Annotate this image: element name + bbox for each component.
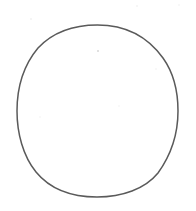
paper-background bbox=[0, 0, 196, 211]
scan-canvas bbox=[0, 0, 196, 211]
drawing-surface bbox=[0, 0, 196, 211]
